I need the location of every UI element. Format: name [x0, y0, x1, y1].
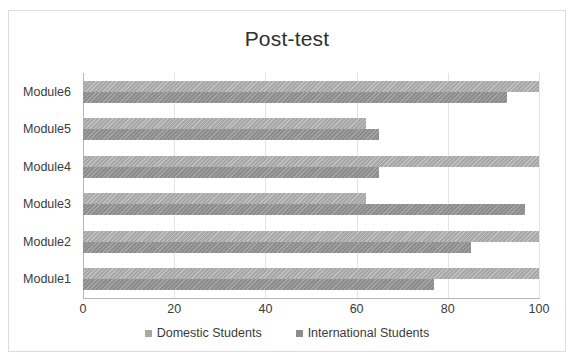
chart-legend: Domestic StudentsInternational Students	[9, 326, 565, 340]
bar-group	[83, 231, 539, 253]
x-tick-label: 80	[441, 302, 455, 316]
x-tick-label: 20	[167, 302, 181, 316]
bar	[83, 204, 525, 215]
bar	[83, 129, 379, 140]
bar	[83, 81, 539, 92]
chart-figure: Post-test Module1Module2Module3Module4Mo…	[8, 10, 566, 352]
legend-label: Domestic Students	[157, 326, 262, 340]
legend-item[interactable]: International Students	[296, 326, 430, 340]
legend-swatch-icon	[296, 330, 303, 337]
bar-group	[83, 156, 539, 178]
legend-label: International Students	[308, 326, 430, 340]
bar	[83, 92, 507, 103]
bar	[83, 193, 366, 204]
bar-group	[83, 118, 539, 140]
x-axis-tick-labels: 020406080100	[83, 302, 539, 322]
x-tick-label: 100	[529, 302, 550, 316]
category-label: Module6	[23, 85, 71, 99]
bar	[83, 231, 539, 242]
bar	[83, 156, 539, 167]
x-tick-label: 60	[350, 302, 364, 316]
legend-swatch-icon	[145, 330, 152, 337]
bar	[83, 167, 379, 178]
bar-group	[83, 193, 539, 215]
category-label: Module1	[23, 272, 71, 286]
category-label: Module2	[23, 235, 71, 249]
chart-title: Post-test	[9, 27, 565, 51]
bar-groups	[83, 73, 539, 298]
category-label: Module4	[23, 160, 71, 174]
gridline-100	[539, 73, 540, 298]
category-axis-labels: Module1Module2Module3Module4Module5Modul…	[9, 73, 79, 298]
bar	[83, 268, 539, 279]
bar	[83, 279, 434, 290]
x-tick-label: 40	[258, 302, 272, 316]
bar	[83, 118, 366, 129]
legend-item[interactable]: Domestic Students	[145, 326, 262, 340]
category-label: Module5	[23, 122, 71, 136]
bar-group	[83, 268, 539, 290]
x-axis-line	[83, 298, 540, 299]
bar	[83, 242, 471, 253]
bar-group	[83, 81, 539, 103]
plot-area	[83, 73, 539, 298]
x-tick-label: 0	[80, 302, 87, 316]
category-label: Module3	[23, 197, 71, 211]
